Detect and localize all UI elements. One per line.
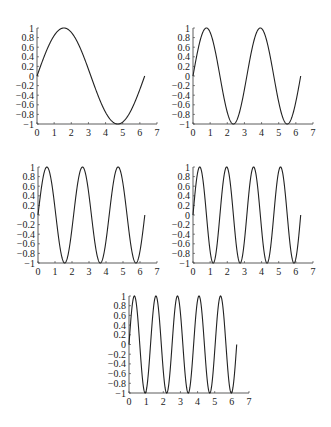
sine-curve: [129, 296, 237, 393]
subplot-sin-4x: 0123456710.80.60.40.20−0.2−0.4−0.6−0.8−1: [172, 162, 316, 278]
x-tick-label: 5: [121, 266, 126, 277]
x-tick-label: 4: [259, 127, 264, 138]
x-tick-label: 5: [276, 266, 281, 277]
x-tick-label: 6: [293, 266, 298, 277]
x-tick-label: 0: [127, 396, 132, 407]
x-tick-label: 2: [69, 127, 74, 138]
y-tick-label: −1: [179, 258, 190, 269]
x-tick-label: 1: [53, 266, 58, 277]
x-tick-label: 1: [208, 266, 213, 277]
x-tick-label: 3: [178, 396, 183, 407]
x-tick-label: 6: [137, 127, 142, 138]
figure-canvas: 0123456710.80.60.40.20−0.2−0.4−0.6−0.8−1…: [0, 0, 331, 427]
axes: 0123456710.80.60.40.20−0.2−0.4−0.6−0.8−1: [172, 162, 316, 278]
x-tick-label: 3: [87, 266, 92, 277]
x-tick-label: 7: [311, 266, 316, 277]
x-tick-label: 0: [191, 266, 196, 277]
subplot-sin-5x: 0123456710.80.60.40.20−0.2−0.4−0.6−0.8−1: [108, 291, 252, 408]
x-tick-label: 0: [36, 266, 41, 277]
x-tick-label: 6: [138, 266, 143, 277]
sine-curve: [193, 28, 301, 124]
y-tick-label: −1: [179, 119, 190, 130]
axes: 0123456710.80.60.40.20−0.2−0.4−0.6−0.8−1: [16, 23, 160, 139]
x-tick-label: 4: [103, 127, 108, 138]
sine-curve: [193, 167, 301, 263]
x-tick-label: 5: [120, 127, 125, 138]
x-tick-label: 7: [311, 127, 316, 138]
y-tick-label: −1: [24, 258, 35, 269]
x-tick-label: 2: [70, 266, 75, 277]
x-tick-label: 5: [276, 127, 281, 138]
x-tick-label: 7: [247, 396, 252, 407]
subplot-sin-2x: 0123456710.80.60.40.20−0.2−0.4−0.6−0.8−1: [172, 23, 316, 139]
x-tick-label: 6: [229, 396, 234, 407]
x-tick-label: 1: [52, 127, 57, 138]
x-tick-label: 6: [293, 127, 298, 138]
subplot-sin-1x: 0123456710.80.60.40.20−0.2−0.4−0.6−0.8−1: [16, 23, 160, 139]
sine-curve: [37, 28, 145, 124]
x-tick-label: 3: [86, 127, 91, 138]
x-tick-label: 2: [161, 396, 166, 407]
y-tick-label: −1: [23, 119, 34, 130]
x-tick-label: 7: [155, 127, 160, 138]
x-tick-label: 3: [242, 266, 247, 277]
x-tick-label: 2: [225, 266, 230, 277]
x-tick-label: 0: [35, 127, 40, 138]
sine-curve: [38, 167, 145, 263]
x-tick-label: 1: [208, 127, 213, 138]
x-tick-label: 3: [242, 127, 247, 138]
x-tick-label: 1: [144, 396, 149, 407]
x-tick-label: 4: [259, 266, 264, 277]
y-tick-label: −1: [115, 388, 126, 399]
x-tick-label: 5: [212, 396, 217, 407]
x-tick-label: 4: [195, 396, 200, 407]
subplot-sin-3x: 0123456710.80.60.40.20−0.2−0.4−0.6−0.8−1: [17, 162, 160, 278]
x-tick-label: 2: [225, 127, 230, 138]
x-tick-label: 4: [104, 266, 109, 277]
x-tick-label: 7: [155, 266, 160, 277]
axes: 0123456710.80.60.40.20−0.2−0.4−0.6−0.8−1: [172, 23, 316, 139]
x-tick-label: 0: [191, 127, 196, 138]
